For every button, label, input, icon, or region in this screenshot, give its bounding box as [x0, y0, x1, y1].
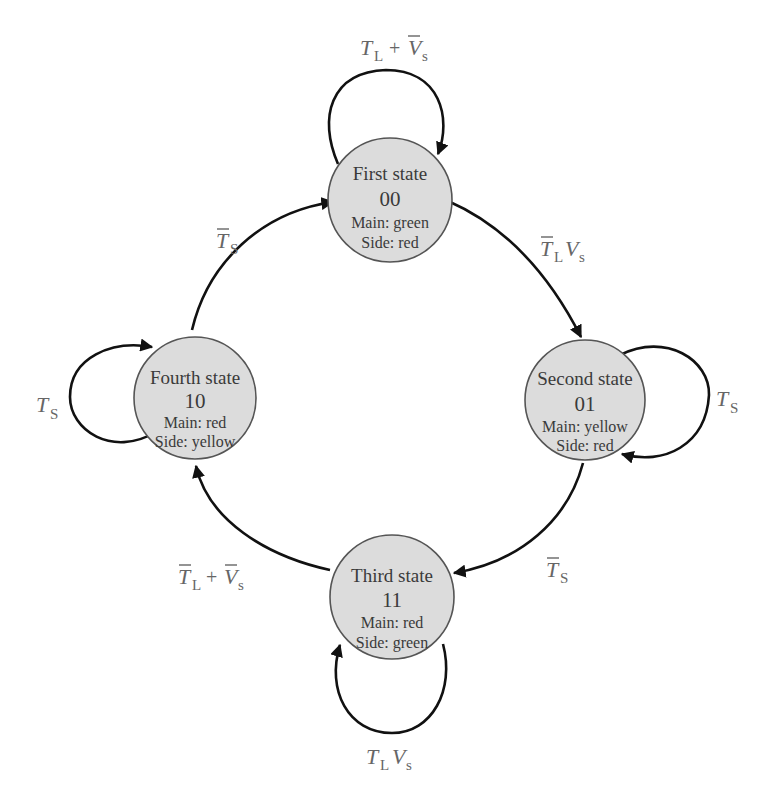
- cond-var: T: [360, 35, 374, 60]
- label-third-to-fourth: T L + V s: [178, 564, 244, 593]
- state-side-light: Side: red: [556, 437, 613, 454]
- edge-third-to-fourth: [196, 466, 330, 570]
- cond-var: T: [546, 557, 560, 582]
- cond-op: +: [389, 37, 400, 59]
- state-fourth: Fourth state 10 Main: red Side: yellow: [134, 337, 256, 459]
- label-second-to-third: T S: [546, 557, 568, 586]
- cond-sub: S: [730, 400, 738, 416]
- state-second: Second state 01 Main: yellow Side: red: [525, 340, 645, 460]
- state-code: 11: [382, 588, 402, 612]
- cond-sub: s: [422, 48, 428, 64]
- state-name: First state: [353, 163, 427, 184]
- state-main-light: Main: green: [351, 214, 429, 232]
- cond-var: T: [716, 386, 730, 411]
- state-name: Third state: [351, 565, 433, 586]
- state-code: 01: [575, 392, 596, 416]
- edge-fourth-to-first: [192, 202, 333, 330]
- state-first: First state 00 Main: green Side: red: [328, 138, 452, 262]
- cond-sub: L: [380, 757, 389, 773]
- label-first-to-second: T L V s: [540, 236, 585, 265]
- state-main-light: Main: red: [361, 614, 424, 631]
- cond-var: T: [366, 744, 380, 769]
- cond-sub: L: [374, 48, 383, 64]
- label-fourth-to-first: T S: [216, 228, 238, 257]
- cond-var: T: [540, 236, 554, 261]
- cond-sub: L: [554, 249, 563, 265]
- cond-sub: s: [406, 757, 412, 773]
- cond-op: +: [206, 566, 217, 588]
- cond-var: T: [36, 392, 50, 417]
- state-main-light: Main: red: [164, 414, 227, 431]
- state-name: Fourth state: [150, 367, 240, 388]
- cond-sub: S: [560, 570, 568, 586]
- state-code: 10: [185, 389, 206, 413]
- cond-sub: S: [230, 241, 238, 257]
- label-second-self-loop: T S: [716, 386, 738, 416]
- state-code: 00: [380, 187, 401, 211]
- state-side-light: Side: yellow: [155, 433, 236, 451]
- state-side-light: Side: red: [361, 234, 418, 251]
- cond-sub: L: [192, 577, 201, 593]
- state-diagram: First state 00 Main: green Side: red Sec…: [0, 0, 770, 796]
- cond-var: T: [216, 228, 230, 253]
- cond-sub: S: [50, 406, 58, 422]
- cond-var: T: [178, 564, 192, 589]
- edge-first-to-second: [448, 201, 581, 337]
- label-fourth-self-loop: T S: [36, 392, 58, 422]
- state-main-light: Main: yellow: [542, 418, 628, 436]
- label-first-self-loop: T L + V s: [360, 35, 428, 64]
- state-side-light: Side: green: [356, 634, 428, 652]
- state-name: Second state: [537, 368, 633, 389]
- label-third-self-loop: T L V s: [366, 744, 412, 773]
- cond-sub: s: [238, 577, 244, 593]
- state-third: Third state 11 Main: red Side: green: [330, 535, 454, 659]
- cond-sub: s: [579, 249, 585, 265]
- edge-second-to-third: [454, 463, 583, 573]
